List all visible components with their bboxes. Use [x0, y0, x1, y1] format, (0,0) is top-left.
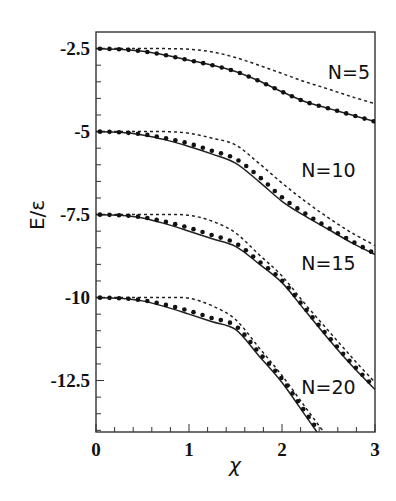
- data-point: [228, 154, 233, 159]
- data-point: [236, 325, 241, 330]
- data-point: [347, 358, 352, 363]
- series-label: N=20: [301, 376, 355, 398]
- data-point: [227, 238, 232, 243]
- x-axis-title: χ: [228, 453, 242, 477]
- data-point: [251, 254, 256, 259]
- data-point: [242, 332, 247, 337]
- data-point: [281, 90, 286, 95]
- data-point: [107, 296, 112, 301]
- data-point: [136, 48, 141, 53]
- data-point: [272, 86, 277, 91]
- data-point: [341, 351, 346, 356]
- data-point: [219, 151, 224, 156]
- data-point: [273, 272, 278, 277]
- data-point: [286, 285, 291, 290]
- data-point: [279, 376, 284, 381]
- data-point: [258, 260, 263, 265]
- data-point: [117, 296, 122, 301]
- data-point: [210, 63, 215, 68]
- data-point: [251, 170, 256, 175]
- data-point: [98, 295, 103, 300]
- data-point: [173, 305, 178, 310]
- data-point: [238, 71, 243, 76]
- data-point: [173, 138, 178, 143]
- data-point: [307, 101, 312, 106]
- data-point: [360, 372, 365, 377]
- data-point: [191, 310, 196, 315]
- solid-curve: [96, 215, 375, 390]
- data-point: [254, 347, 259, 352]
- data-point: [367, 379, 372, 384]
- data-point: [191, 227, 196, 232]
- data-point: [316, 322, 321, 327]
- data-point: [303, 211, 308, 216]
- data-point: [304, 308, 309, 313]
- y-tick-label: -7.5: [60, 204, 90, 225]
- data-point: [344, 111, 349, 116]
- solid-curve: [96, 132, 375, 255]
- dashed-curve: [96, 131, 375, 245]
- data-point: [360, 245, 365, 250]
- data-point: [164, 53, 169, 58]
- series-label: N=5: [328, 61, 370, 83]
- data-point: [260, 354, 265, 359]
- data-point: [273, 368, 278, 373]
- data-point: [182, 140, 187, 145]
- data-point: [154, 134, 159, 139]
- data-point: [285, 383, 290, 388]
- data-point: [126, 48, 131, 53]
- series-n-10: [96, 129, 375, 254]
- series-n-20: [96, 295, 324, 432]
- data-point: [173, 55, 178, 60]
- data-point: [219, 318, 224, 323]
- data-point: [272, 189, 277, 194]
- data-point: [264, 82, 269, 87]
- data-point: [326, 106, 331, 111]
- data-point: [107, 213, 112, 218]
- data-point: [298, 300, 303, 305]
- solid-curve: [96, 298, 317, 432]
- data-point: [145, 299, 150, 304]
- data-point: [246, 74, 251, 79]
- data-point: [344, 236, 349, 241]
- data-point: [255, 78, 260, 83]
- data-point: [353, 114, 358, 119]
- y-axis-title: E/ε: [25, 200, 49, 230]
- data-point: [173, 222, 178, 227]
- y-tick-label: -10: [65, 287, 90, 308]
- data-point: [117, 47, 122, 52]
- data-point: [280, 195, 285, 200]
- data-point: [182, 307, 187, 312]
- y-tick-label: -2.5: [60, 38, 90, 59]
- data-point: [107, 47, 112, 52]
- data-point: [259, 176, 264, 181]
- y-tick-label: -12.5: [50, 370, 90, 391]
- data-point: [209, 316, 214, 321]
- data-point: [145, 50, 150, 55]
- data-point: [244, 164, 249, 169]
- data-point: [336, 231, 341, 236]
- x-tick-label: 2: [277, 439, 287, 460]
- data-point: [200, 313, 205, 318]
- data-point: [191, 143, 196, 148]
- x-tick-label: 1: [184, 439, 194, 460]
- solid-curve: [96, 49, 375, 122]
- data-point: [218, 235, 223, 240]
- data-point: [316, 103, 321, 108]
- data-point: [290, 391, 295, 396]
- data-point: [335, 344, 340, 349]
- data-point: [306, 415, 311, 420]
- data-point: [164, 220, 169, 225]
- curves: [96, 46, 376, 432]
- data-point: [312, 422, 317, 427]
- data-point: [136, 297, 141, 302]
- data-point: [98, 46, 103, 51]
- data-point: [369, 249, 374, 254]
- data-point: [98, 129, 103, 134]
- data-point: [266, 182, 271, 187]
- data-point: [136, 131, 141, 136]
- data-point: [267, 361, 272, 366]
- data-point: [154, 218, 159, 223]
- energy-vs-chi-chart: -2.5-5-7.5-10-12.5 0123 N=5N=10N=15N=20 …: [0, 0, 396, 501]
- data-point: [327, 226, 332, 231]
